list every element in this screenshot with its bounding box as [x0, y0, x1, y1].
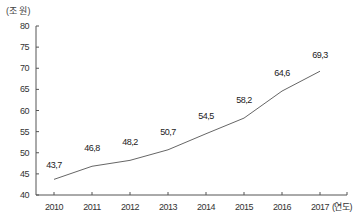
y-tick-label: 40: [20, 190, 30, 200]
y-tick-label: 60: [20, 106, 30, 116]
data-point-label: 54,5: [198, 111, 214, 121]
y-tick-label: 70: [20, 63, 30, 73]
line-chart: (조 원) 404550556065707580 201020112012201…: [0, 0, 361, 223]
x-tick-label: 2012: [121, 202, 140, 212]
x-tick-label: 2013: [159, 202, 178, 212]
y-tick-label: 55: [20, 127, 30, 137]
data-point-label: 46,8: [84, 143, 100, 153]
x-tick-label: 2015: [235, 202, 254, 212]
y-axis: 404550556065707580: [20, 21, 39, 200]
data-labels: 43,746,848,250,754,558,264,669,3: [46, 50, 328, 170]
x-tick-label: 2010: [45, 202, 64, 212]
x-tick-label: 2016: [273, 202, 292, 212]
x-tick-label: 2014: [197, 202, 216, 212]
y-tick-label: 50: [20, 148, 30, 158]
data-point-label: 64,6: [274, 68, 290, 78]
data-point-label: 43,7: [46, 160, 62, 170]
y-tick-label: 65: [20, 84, 30, 94]
y-axis-unit-label: (조 원): [6, 6, 31, 16]
y-tick-label: 45: [20, 169, 30, 179]
x-tick-label: 2017: [311, 202, 330, 212]
x-tick-label: 2011: [83, 202, 101, 212]
data-point-label: 50,7: [160, 127, 176, 137]
x-axis-unit-label: (연도): [332, 202, 352, 212]
y-tick-label: 80: [20, 21, 30, 31]
series-line: [54, 71, 320, 179]
data-point-label: 69,3: [312, 50, 328, 60]
y-tick-label: 75: [20, 42, 30, 52]
data-point-label: 48,2: [122, 137, 138, 147]
x-axis: 20102011201220132014201520162017: [36, 192, 347, 212]
data-point-label: 58,2: [236, 95, 252, 105]
